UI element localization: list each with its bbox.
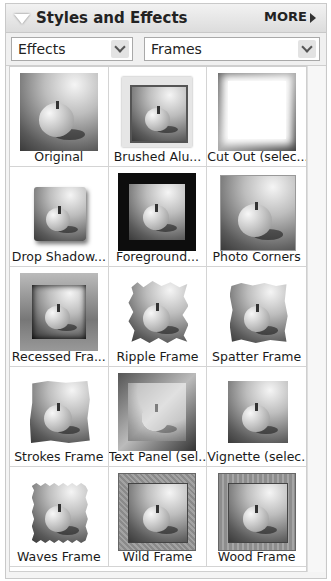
effect-item-foreground[interactable]: Foreground... xyxy=(109,167,208,267)
effect-item-wood[interactable]: Wood Frame xyxy=(207,467,306,567)
effect-item-corners[interactable]: Photo Corners xyxy=(207,167,306,267)
effect-item-wild[interactable]: Wild Frame xyxy=(109,467,208,567)
effect-thumbnail xyxy=(118,73,196,151)
effect-thumbnail xyxy=(118,473,196,551)
apple-photo xyxy=(32,483,88,543)
category-dropdown-button[interactable] xyxy=(111,40,129,58)
effect-label: Ripple Frame xyxy=(109,349,207,364)
effect-label: Vignette (selec... xyxy=(207,449,306,464)
filter-toolbar: Effects Frames xyxy=(6,33,326,66)
effect-item-textpanel[interactable]: Text Panel (sel... xyxy=(109,367,208,467)
chevron-down-icon xyxy=(114,41,125,52)
more-label: MORE xyxy=(264,9,307,24)
effect-item-dropshadow[interactable]: Drop Shadow... xyxy=(10,167,109,267)
effect-label: Wood Frame xyxy=(207,549,306,564)
effect-label: Wild Frame xyxy=(109,549,207,564)
category-dropdown-value: Effects xyxy=(18,41,66,57)
effect-item-cutout[interactable]: Cut Out (selec... xyxy=(207,67,306,167)
effect-thumbnail xyxy=(20,373,98,451)
apple-photo xyxy=(128,483,188,543)
styles-and-effects-panel: Styles and Effects MORE Effects Frames O… xyxy=(5,3,327,579)
effect-item-ripple[interactable]: Ripple Frame xyxy=(109,267,208,367)
effects-grid: OriginalBrushed Alu...Cut Out (selec...D… xyxy=(10,67,306,567)
type-dropdown[interactable]: Frames xyxy=(144,37,320,61)
effect-thumbnail xyxy=(20,73,98,151)
more-button[interactable]: MORE xyxy=(264,9,316,24)
effect-thumbnail xyxy=(218,473,296,551)
effect-label: Original xyxy=(10,149,108,164)
effect-thumbnail xyxy=(20,173,98,251)
effect-label: Brushed Alu... xyxy=(109,149,207,164)
effect-item-original[interactable]: Original xyxy=(10,67,109,167)
effect-label: Waves Frame xyxy=(10,549,108,564)
effect-item-strokes[interactable]: Strokes Frame xyxy=(10,367,109,467)
effect-label: Spatter Frame xyxy=(207,349,306,364)
apple-photo xyxy=(30,381,90,443)
effect-label: Strokes Frame xyxy=(10,449,108,464)
apple-photo xyxy=(34,187,86,241)
panel-title: Styles and Effects xyxy=(36,9,188,27)
apple-photo xyxy=(128,383,186,441)
apple-photo xyxy=(129,184,185,240)
apple-photo xyxy=(220,175,296,251)
effect-item-waves[interactable]: Waves Frame xyxy=(10,467,109,567)
type-dropdown-value: Frames xyxy=(151,41,202,57)
effect-thumbnail xyxy=(218,73,296,151)
effect-thumbnail xyxy=(118,373,196,451)
category-dropdown[interactable]: Effects xyxy=(11,37,133,61)
apple-photo xyxy=(230,283,288,343)
effect-label: Recessed Fra... xyxy=(10,349,108,364)
chevron-down-icon xyxy=(301,41,312,52)
effects-grid-container: OriginalBrushed Alu...Cut Out (selec...D… xyxy=(9,66,307,572)
effect-item-recessed[interactable]: Recessed Fra... xyxy=(10,267,109,367)
effect-thumbnail xyxy=(118,273,196,351)
effect-thumbnail xyxy=(218,373,296,451)
effect-item-brushed[interactable]: Brushed Alu... xyxy=(109,67,208,167)
apple-photo xyxy=(228,381,288,443)
collapse-triangle-icon[interactable] xyxy=(14,14,30,24)
effect-label: Text Panel (sel... xyxy=(109,449,207,464)
apple-photo xyxy=(228,483,288,543)
panel-header[interactable]: Styles and Effects MORE xyxy=(6,4,326,33)
effect-label: Cut Out (selec... xyxy=(207,149,306,164)
effect-thumbnail xyxy=(218,173,296,251)
effect-label: Drop Shadow... xyxy=(10,249,108,264)
apple-photo xyxy=(128,281,188,343)
effect-label: Foreground... xyxy=(109,249,207,264)
effect-thumbnail xyxy=(20,273,98,351)
effect-thumbnail xyxy=(20,473,98,551)
effect-item-spatter[interactable]: Spatter Frame xyxy=(207,267,306,367)
effect-thumbnail xyxy=(218,273,296,351)
triangle-right-icon xyxy=(310,13,316,23)
effect-thumbnail xyxy=(118,173,196,251)
effect-item-vignette[interactable]: Vignette (selec... xyxy=(207,367,306,467)
apple-photo xyxy=(130,85,188,143)
vertical-scrollbar[interactable] xyxy=(307,66,325,572)
effect-label: Photo Corners xyxy=(207,249,306,264)
apple-photo xyxy=(32,285,86,339)
apple-photo xyxy=(20,73,98,151)
type-dropdown-button[interactable] xyxy=(298,40,316,58)
